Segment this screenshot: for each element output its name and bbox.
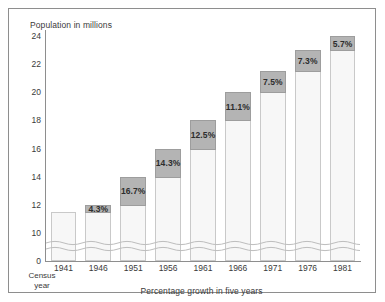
growth-percentage-label: 5.7%	[333, 39, 353, 49]
bar-1941	[51, 212, 77, 261]
bar-1946: 4.3%	[85, 205, 111, 261]
x-tick-label-1956: 1956	[151, 264, 186, 273]
x-tick-label-1946: 1946	[81, 264, 116, 273]
bar-growth-cap-1961: 12.5%	[190, 120, 216, 149]
growth-percentage-label: 16.7%	[121, 186, 146, 196]
bar-growth-cap-1981: 5.7%	[330, 36, 356, 51]
growth-percentage-label: 14.3%	[156, 158, 181, 168]
y-tick-label: 18	[32, 116, 41, 125]
y-axis-title: Population in millions	[30, 20, 112, 30]
bar-1981: 5.7%	[330, 36, 356, 261]
y-tick-label: 0	[36, 257, 41, 266]
x-tick-label-1976: 1976	[290, 264, 325, 273]
plot-area: 01012141618202224 4.3%16.7%14.3%12.5%11.…	[46, 30, 360, 261]
bar-growth-cap-1971: 7.5%	[260, 71, 286, 93]
bar-1956: 14.3%	[155, 149, 181, 261]
y-tick-label: 22	[32, 60, 41, 69]
x-tick-label-1971: 1971	[255, 264, 290, 273]
y-tick-label: 16	[32, 144, 41, 153]
bar-1976: 7.3%	[295, 50, 321, 261]
growth-percentage-label: 7.3%	[298, 56, 318, 66]
x-axis-title: Percentage growth in five years	[9, 286, 385, 296]
x-tick-label-1966: 1966	[220, 264, 255, 273]
bar-growth-cap-1966: 11.1%	[225, 92, 251, 121]
bar-1971: 7.5%	[260, 71, 286, 261]
bar-1961: 12.5%	[190, 120, 216, 261]
x-tick-label-1951: 1951	[116, 264, 151, 273]
y-tick-label: 14	[32, 172, 41, 181]
x-tick-label-1981: 1981	[325, 264, 360, 273]
y-tick-label: 24	[32, 32, 41, 41]
bar-growth-cap-1976: 7.3%	[295, 50, 321, 72]
bar-growth-cap-1951: 16.7%	[120, 177, 146, 206]
growth-percentage-label: 4.3%	[88, 204, 108, 214]
bar-growth-cap-1946: 4.3%	[85, 205, 111, 213]
y-tick-label: 20	[32, 88, 41, 97]
bar-growth-cap-1956: 14.3%	[155, 149, 181, 178]
growth-percentage-label: 7.5%	[263, 77, 283, 87]
y-tick-label: 10	[32, 229, 41, 238]
growth-percentage-label: 11.1%	[226, 102, 250, 112]
x-axis-line	[45, 261, 361, 262]
bar-1951: 16.7%	[120, 177, 146, 261]
bar-1966: 11.1%	[225, 92, 251, 261]
y-tick-label: 12	[32, 201, 41, 210]
growth-percentage-label: 12.5%	[191, 130, 216, 140]
x-tick-label-1941: 1941	[46, 264, 81, 273]
x-tick-label-1961: 1961	[186, 264, 221, 273]
